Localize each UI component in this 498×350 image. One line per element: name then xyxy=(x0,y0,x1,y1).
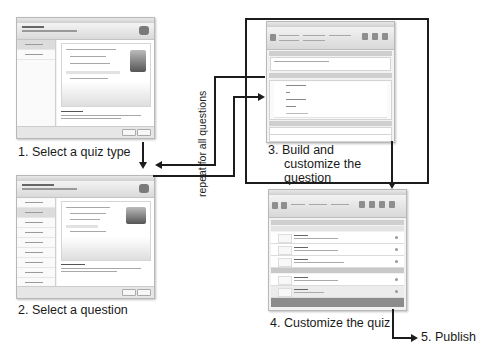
screenshot-quiz-editor xyxy=(268,189,407,311)
empty-area xyxy=(271,298,404,307)
step-1-caption: 1. Select a quiz type xyxy=(18,145,131,159)
feedback-header xyxy=(269,121,392,126)
app-logo-icon xyxy=(139,26,149,35)
sidebar-item xyxy=(17,198,55,208)
save-icon xyxy=(270,34,276,41)
arrow-step3-to-step4 xyxy=(391,141,393,184)
step-3-caption-line-2: customize the xyxy=(268,157,361,171)
loop-label: repeat for all questions xyxy=(196,91,208,197)
question-list-item xyxy=(271,232,404,244)
question-text-header xyxy=(269,51,392,56)
loop-line-left-vertical xyxy=(214,76,216,166)
screenshot-select-question xyxy=(16,175,155,299)
ribbon-toolbar xyxy=(267,27,394,50)
sidebar-item xyxy=(17,218,55,228)
sidebar-item xyxy=(17,50,55,60)
next-button xyxy=(122,289,136,296)
question-type-list xyxy=(17,198,56,287)
wizard-main xyxy=(57,40,154,127)
sidebar-item xyxy=(17,248,55,258)
question-list-header xyxy=(271,220,404,225)
wizard-footer xyxy=(17,126,154,138)
choices-table xyxy=(269,80,392,120)
sidebar-item xyxy=(17,238,55,248)
wizard-sidebar xyxy=(17,40,56,127)
screenshot-question-editor xyxy=(266,21,395,143)
step-4-caption: 4. Customize the quiz xyxy=(270,316,390,330)
wizard-main xyxy=(57,198,154,287)
result-slide-item xyxy=(271,274,404,286)
illustration-image xyxy=(126,207,146,224)
question-group-header xyxy=(271,226,404,231)
question-type-card xyxy=(61,201,151,261)
arrow-head-right-icon xyxy=(411,334,418,342)
arrow-head-down-icon xyxy=(388,182,396,189)
next-button xyxy=(122,129,136,136)
sidebar-item xyxy=(17,258,55,268)
question-icon xyxy=(281,202,287,209)
properties-icon xyxy=(369,201,375,208)
sidebar-item xyxy=(17,40,55,50)
wizard-header xyxy=(17,23,154,40)
sidebar-item xyxy=(17,208,55,218)
media-icon xyxy=(372,33,378,40)
wizard-footer xyxy=(17,286,154,298)
sidebar-item xyxy=(17,268,55,278)
player-icon xyxy=(359,201,365,208)
ribbon-toolbar xyxy=(269,195,406,218)
step-5-caption: 5. Publish xyxy=(421,330,476,344)
question-list-item xyxy=(271,244,404,256)
question-list-item xyxy=(271,256,404,268)
preview-icon xyxy=(379,201,385,208)
arrow-step1-to-step2 xyxy=(142,142,144,164)
step-2-caption: 2. Select a question xyxy=(18,303,128,317)
results-group-header xyxy=(271,268,404,273)
preview-icon xyxy=(382,33,388,40)
insert-icon xyxy=(362,33,368,40)
step-3-caption-line-3: question xyxy=(268,171,361,185)
wizard-header xyxy=(17,181,154,198)
save-icon xyxy=(272,202,278,209)
sidebar-item xyxy=(17,228,55,238)
app-logo-icon xyxy=(139,184,149,193)
illustration-image xyxy=(130,50,146,72)
result-slide-item xyxy=(271,286,404,298)
question-text-field xyxy=(270,57,391,71)
step-3-caption-line-1: 3. Build and xyxy=(268,143,361,157)
arrow-head-down-icon xyxy=(139,162,147,169)
arrow-step4-to-step5-horizontal xyxy=(392,337,412,339)
step-3-caption: 3. Build and customize the question xyxy=(268,143,361,185)
choices-header xyxy=(269,73,392,78)
line-step2-to-step3-vertical xyxy=(233,96,235,177)
line-step2-out xyxy=(153,175,235,177)
screenshot-select-quiz-type xyxy=(16,17,155,139)
choice-row xyxy=(274,110,387,118)
arrow-head-left-icon xyxy=(155,161,162,169)
feedback-row-incorrect xyxy=(269,134,392,142)
cancel-button xyxy=(137,289,151,296)
publish-icon xyxy=(389,201,395,208)
arrow-step4-to-step5 xyxy=(392,309,394,339)
quiz-type-card xyxy=(61,43,151,107)
cancel-button xyxy=(137,129,151,136)
